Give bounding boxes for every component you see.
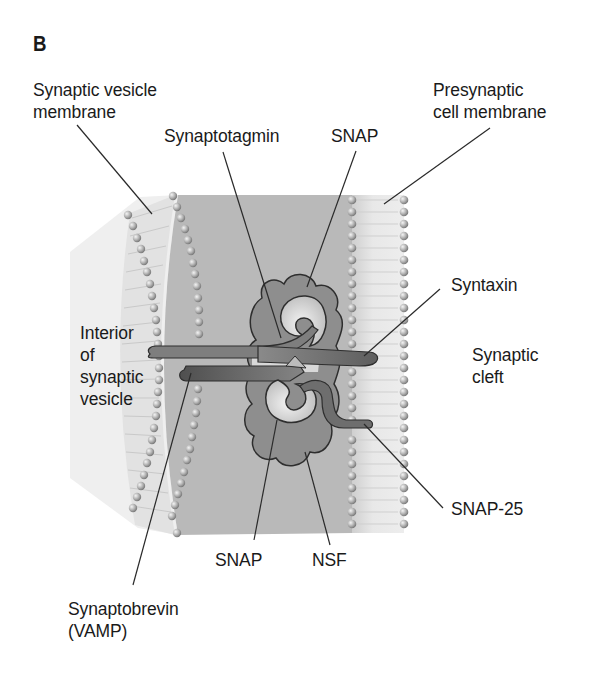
label-presynaptic-cell-membrane: Presynaptic cell membrane [433,79,546,123]
label-line: Synaptic vesicle [33,79,157,101]
label-synaptic-cleft: Synaptic cleft [472,344,538,388]
leader-vesicle-membrane [77,125,152,214]
label-line: cell membrane [433,101,546,123]
leader-presynaptic-membrane [384,128,490,204]
label-synaptotagmin: Synaptotagmin [164,125,279,147]
label-syntaxin: Syntaxin [451,274,517,296]
label-snap-bottom: SNAP [215,549,262,571]
label-line: Presynaptic [433,79,546,101]
label-line: synaptic [80,366,143,388]
label-nsf: NSF [312,549,347,571]
synaptobrevin-bar [180,366,304,381]
label-line: (VAMP) [68,620,179,642]
label-line: Synaptic [472,344,538,366]
label-snap-25: SNAP-25 [451,498,523,520]
label-line: vesicle [80,388,143,410]
label-line: Synaptobrevin [68,598,179,620]
label-line: Interior [80,322,143,344]
label-line: of [80,344,143,366]
label-line: cleft [472,366,538,388]
label-interior-of-synaptic-vesicle: Interior of synaptic vesicle [80,322,143,410]
label-snap-top: SNAP [331,125,378,147]
label-synaptic-vesicle-membrane: Synaptic vesicle membrane [33,79,157,123]
label-line: membrane [33,101,157,123]
label-synaptobrevin: Synaptobrevin (VAMP) [68,598,179,642]
